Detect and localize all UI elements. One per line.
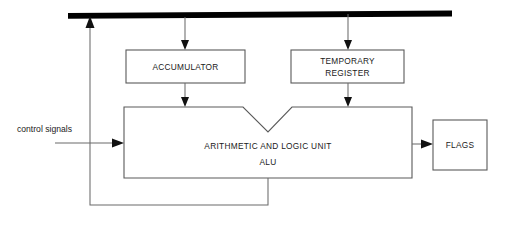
temporary-register-label-line1: TEMPORARY [320,56,375,66]
wire-bus-to-accumulator [181,17,189,50]
temporary-register-block: TEMPORARY REGISTER [291,50,404,83]
accumulator-label: ACCUMULATOR [152,62,218,72]
wire-bus-to-temporary-register [344,14,352,50]
temporary-register-label-line2: REGISTER [325,68,369,78]
alu-block-diagram: ACCUMULATOR TEMPORARY REGISTER ARITHMETI… [0,0,505,226]
flags-block: FLAGS [433,120,487,170]
alu-label-line1: ARITHMETIC AND LOGIC UNIT [204,141,331,151]
internal-data-bus [68,11,452,19]
flags-label: FLAGS [446,140,475,150]
alu-block: ARITHMETIC AND LOGIC UNIT ALU [124,107,412,178]
diagram-canvas: ACCUMULATOR TEMPORARY REGISTER ARITHMETI… [0,0,505,226]
alu-label-line2: ALU [259,157,276,167]
wire-alu-to-flags [412,140,433,149]
control-signals-label: control signals [17,124,72,134]
control-signals-input: control signals [17,124,124,148]
accumulator-block: ACCUMULATOR [126,50,245,83]
wire-accumulator-to-alu [181,83,189,107]
wire-temporary-register-to-alu [344,83,352,107]
